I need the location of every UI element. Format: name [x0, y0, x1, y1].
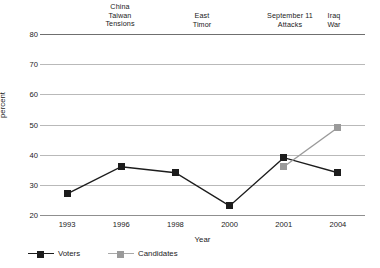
- y-axis-tick-label: 40: [8, 150, 38, 159]
- annotation-label: Iraq War: [289, 12, 379, 29]
- x-axis-tick-label: 1998: [145, 220, 205, 229]
- data-point-marker: [226, 202, 233, 209]
- series-lines: [40, 34, 365, 215]
- annotation-label: China Taiwan Tensions: [75, 3, 165, 29]
- x-axis-tick-label: 2004: [308, 220, 368, 229]
- data-point-marker: [172, 169, 179, 176]
- x-axis-tick-label: 2001: [254, 220, 314, 229]
- legend-swatch-icon: [108, 250, 134, 258]
- gridline: [40, 215, 365, 216]
- x-axis-tick-label: 1996: [91, 220, 151, 229]
- y-axis-tick-label: 30: [8, 180, 38, 189]
- legend-swatch-icon: [28, 250, 54, 258]
- x-axis-tick-label: 2000: [200, 220, 260, 229]
- series-line: [67, 158, 338, 206]
- data-point-marker: [334, 169, 341, 176]
- legend-item[interactable]: Voters: [28, 249, 80, 258]
- data-point-marker: [280, 163, 287, 170]
- chart-container: China Taiwan TensionsEast TimorSeptember…: [0, 0, 380, 268]
- y-axis-label: percent: [0, 92, 7, 118]
- x-axis-label: Year: [40, 235, 365, 244]
- data-point-marker: [118, 163, 125, 170]
- legend-label: Candidates: [138, 249, 177, 258]
- y-axis-tick-label: 70: [8, 60, 38, 69]
- data-point-marker: [280, 154, 287, 161]
- chart-legend: VotersCandidates: [28, 249, 178, 258]
- x-axis-tick-label: 1993: [37, 220, 97, 229]
- data-point-marker: [334, 124, 341, 131]
- y-axis-tick-label: 60: [8, 90, 38, 99]
- legend-label: Voters: [58, 249, 80, 258]
- y-axis-tick-label: 50: [8, 120, 38, 129]
- y-axis-tick-label: 80: [8, 30, 38, 39]
- series-line: [284, 128, 338, 167]
- data-point-marker: [64, 190, 71, 197]
- legend-item[interactable]: Candidates: [108, 249, 177, 258]
- y-axis-tick-label: 20: [8, 211, 38, 220]
- annotation-label: East Timor: [157, 12, 247, 29]
